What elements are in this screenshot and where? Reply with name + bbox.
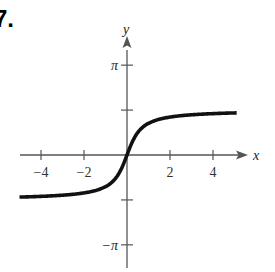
y-tick-label: π (111, 58, 119, 73)
y-axis-label: y (121, 22, 130, 37)
x-tick-label: 2 (167, 165, 174, 180)
x-tick-label: −4 (34, 165, 49, 180)
x-tick-label: −2 (77, 165, 92, 180)
y-axis-arrow-icon (123, 36, 132, 48)
problem-number: 7. (0, 5, 14, 32)
y-tick-label: −π (102, 238, 119, 253)
chart-plot: 7. x y −4−224 π−π (0, 0, 275, 272)
x-axis-label: x (252, 148, 260, 163)
x-tick-label: 4 (210, 165, 217, 180)
